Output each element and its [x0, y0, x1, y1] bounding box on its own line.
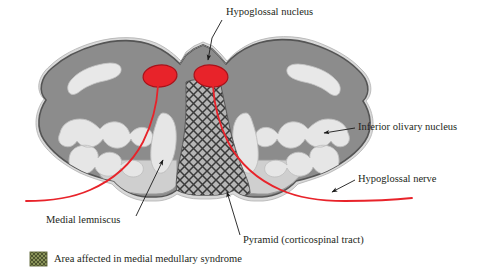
- label-inferior-olivary-nucleus: Inferior olivary nucleus: [358, 121, 457, 132]
- legend: Area affected in medial medullary syndro…: [30, 252, 242, 266]
- medulla-diagram-figure: Hypoglossal nucleus Inferior olivary nuc…: [0, 0, 483, 279]
- legend-label: Area affected in medial medullary syndro…: [54, 253, 242, 264]
- label-hypoglossal-nerve: Hypoglossal nerve: [358, 173, 437, 184]
- leader-pyramid: [227, 192, 240, 235]
- label-pyramid: Pyramid (corticospinal tract): [243, 234, 364, 246]
- label-medial-lemniscus: Medial lemniscus: [46, 214, 120, 225]
- legend-swatch-icon: [30, 252, 47, 266]
- label-hypoglossal-nucleus: Hypoglossal nucleus: [226, 6, 313, 17]
- medulla-cross-section-svg: Hypoglossal nucleus Inferior olivary nuc…: [0, 0, 483, 279]
- leader-hypoglossal-nerve: [332, 180, 355, 192]
